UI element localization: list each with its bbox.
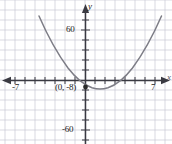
coordinate-plane — [0, 0, 172, 144]
y-axis-label: y — [88, 2, 92, 11]
y-tick-label-60: 60 — [66, 25, 75, 34]
x-tick-label-7: 7 — [151, 83, 155, 92]
x-tick-label-negative-7: -7 — [12, 83, 19, 92]
y-intercept-point-marker — [83, 85, 88, 90]
y-tick-label-negative-60: -60 — [62, 125, 73, 134]
x-axis-left-arrowhead — [2, 77, 11, 84]
x-axis-label: x — [167, 73, 171, 82]
y-intercept-point-label: (0, -8) — [55, 83, 76, 92]
parabola-curve — [39, 16, 162, 89]
graph-figure: y x 60 -60 -7 7 (0, -8) — [0, 0, 172, 144]
y-axis — [81, 4, 90, 144]
